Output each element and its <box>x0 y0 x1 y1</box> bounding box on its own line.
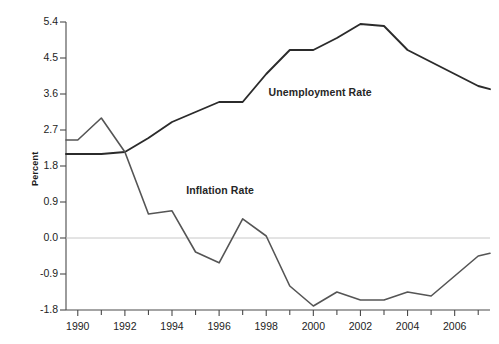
y-axis-ticks <box>60 22 66 310</box>
y-axis-tick-label: 0.0 <box>14 231 58 243</box>
y-axis-tick-label: 0.9 <box>14 195 58 207</box>
y-axis-tick-label: 5.4 <box>14 15 58 27</box>
economic-indicators-line-chart: Percent 5.44.53.62.71.80.90.0-0.9-1.8 19… <box>0 0 499 344</box>
inflation-rate-line <box>66 118 490 306</box>
inflation-rate-series-label: Inflation Rate <box>186 184 254 196</box>
unemployment-rate-series-label: Unemployment Rate <box>269 86 372 98</box>
y-axis-tick-label: -1.8 <box>14 303 58 315</box>
x-axis-ticks <box>78 310 478 316</box>
y-axis-tick-label: 4.5 <box>14 51 58 63</box>
y-axis-tick-label: 2.7 <box>14 123 58 135</box>
plot-area <box>0 0 499 344</box>
y-axis-tick-label: 3.6 <box>14 87 58 99</box>
x-axis-tick-label: 2006 <box>425 320 485 332</box>
y-axis-tick-label: -0.9 <box>14 267 58 279</box>
y-axis-tick-label: 1.8 <box>14 159 58 171</box>
